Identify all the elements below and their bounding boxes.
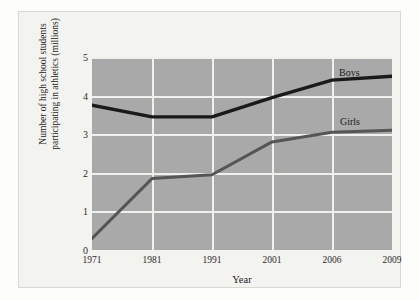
x-axis-tick-labels: 1971 1981 1991 2001 2006 2009 bbox=[92, 256, 392, 270]
x-tick-2001: 2001 bbox=[245, 256, 299, 266]
y-axis-tick-labels: 5 4 3 2 1 0 bbox=[63, 57, 88, 250]
x-axis-title: Year bbox=[92, 274, 392, 285]
x-tick-2006: 2006 bbox=[305, 256, 359, 266]
x-tick-1981: 1981 bbox=[125, 256, 179, 266]
line-series-girls bbox=[92, 130, 392, 238]
y-axis-title-line2: participating in athletics (millions) bbox=[49, 0, 61, 174]
series-label-boys: Boys bbox=[339, 68, 360, 78]
y-tick-2: 2 bbox=[66, 169, 88, 179]
y-tick-3: 3 bbox=[66, 130, 88, 140]
x-tick-2009: 2009 bbox=[365, 256, 419, 266]
y-tick-4: 4 bbox=[66, 92, 88, 102]
series-label-girls: Girls bbox=[340, 117, 360, 127]
x-tick-1971: 1971 bbox=[65, 256, 119, 266]
plot-area bbox=[92, 57, 392, 250]
x-tick-1991: 1991 bbox=[185, 256, 239, 266]
y-axis-title: Number of high school students participa… bbox=[37, 0, 61, 174]
line-series-boys bbox=[92, 76, 392, 117]
y-tick-5: 5 bbox=[66, 53, 88, 63]
y-tick-1: 1 bbox=[66, 207, 88, 217]
series-plot bbox=[92, 57, 392, 250]
chart-screenshot: Number of high school students participa… bbox=[0, 0, 419, 300]
figure-card: Number of high school students participa… bbox=[18, 11, 401, 288]
y-axis-title-line1: Number of high school students bbox=[37, 0, 49, 174]
